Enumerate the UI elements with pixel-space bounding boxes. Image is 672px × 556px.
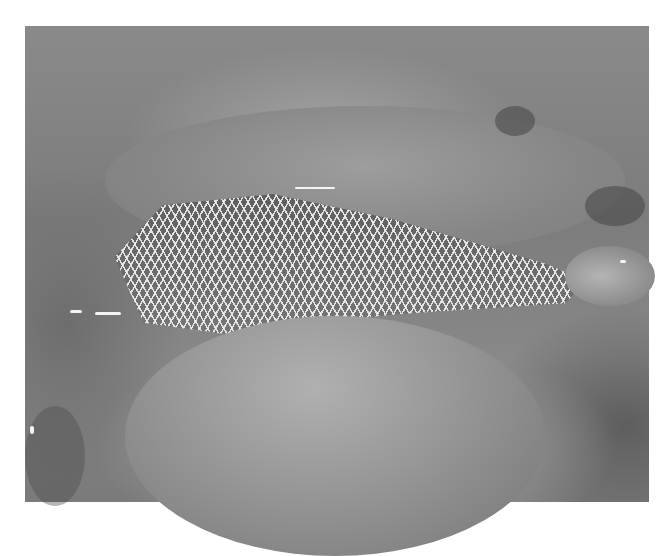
shadow-region bbox=[495, 106, 535, 136]
shadow-region bbox=[585, 186, 645, 226]
specular-highlight bbox=[95, 312, 121, 315]
specular-highlight bbox=[30, 426, 34, 434]
specular-highlight bbox=[620, 260, 626, 263]
surgical-photo bbox=[25, 26, 649, 502]
shadow-region bbox=[25, 406, 85, 506]
specular-highlight bbox=[70, 310, 82, 313]
lower-tissue-dome bbox=[125, 316, 545, 556]
specular-highlight bbox=[295, 187, 335, 189]
mesh-end-tissue bbox=[565, 246, 655, 306]
